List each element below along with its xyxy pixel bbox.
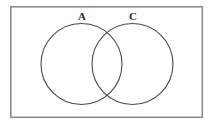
- circle-c: [92, 24, 173, 105]
- set-label-c: C: [126, 11, 140, 22]
- venn-diagram-canvas: A C: [0, 0, 213, 128]
- set-label-a: A: [75, 11, 89, 22]
- circle-a: [41, 24, 122, 105]
- venn-diagram-figure: [0, 0, 213, 128]
- universal-set-rectangle: [11, 7, 203, 118]
